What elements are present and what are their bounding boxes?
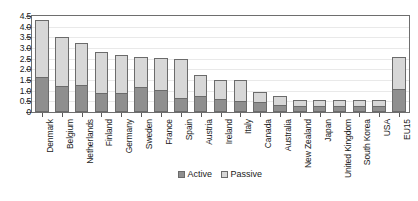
x-tick-mark [221,113,222,117]
x-tick-mark [201,113,202,117]
x-tick-mark [240,113,241,117]
bar-stack [234,80,248,112]
bar-segment-active [134,87,148,112]
y-axis: 00.51.01.52.02.53.03.54.04.5 [0,0,31,201]
bar-segment-active [372,106,386,112]
bar-segment-passive [35,20,49,77]
legend-item-passive[interactable]: Passive [221,170,262,179]
bar-stack [134,57,148,112]
bar-stack [313,100,327,112]
bar-group [392,16,406,112]
x-tick-mark [101,113,102,117]
bar-segment-active [253,102,267,112]
bar-stack [55,37,69,112]
x-tick-mark [121,113,122,117]
x-tick-label-australia: Australia [284,119,293,151]
y-tick-label: 4.0 [7,23,31,32]
x-tick-mark [161,113,162,117]
bar-segment-passive [75,43,89,85]
x-tick-mark [320,113,321,117]
bar-group [313,16,327,112]
bar-group [134,16,148,112]
bar-segment-active [194,96,208,112]
x-tick-mark [42,113,43,117]
bar-group [333,16,347,112]
x-tick-mark [399,113,400,117]
x-tick-label-france: France [165,119,174,145]
x-tick-label-south-korea: South Korea [363,119,372,165]
bar-group [214,16,228,112]
bar-segment-active [154,90,168,112]
bar-segment-active [75,85,89,112]
x-tick-mark [62,113,63,117]
y-tick-label: 0.5 [7,97,31,106]
bar-segment-passive [55,37,69,86]
bar-stack [194,75,208,112]
y-tick-label: 0 [7,108,31,117]
bar-series-container [32,16,409,112]
bar-stack [115,55,129,112]
x-tick-label-united-kingdom: United Kingdom [344,119,353,178]
bar-stack [273,96,287,112]
bar-group [194,16,208,112]
bar-group [253,16,267,112]
bar-stack [333,100,347,112]
legend-swatch-passive-icon [221,171,228,178]
y-tick-label: 3.5 [7,33,31,42]
x-tick-label-italy: Italy [244,119,253,134]
bar-segment-active [174,98,188,112]
x-tick-mark [82,113,83,117]
bar-stack [174,59,188,112]
bar-segment-active [293,106,307,112]
bar-segment-passive [234,80,248,101]
bar-segment-active [115,93,129,112]
bar-group [55,16,69,112]
bar-stack [353,100,367,112]
bar-segment-active [95,93,109,112]
x-tick-mark [359,113,360,117]
bar-segment-active [55,86,69,112]
bar-stack [253,92,267,112]
bar-stack [95,52,109,112]
x-tick-label-spain: Spain [185,119,194,140]
bar-segment-passive [194,75,208,96]
x-tick-label-ireland: Ireland [225,119,234,144]
x-tick-label-austria: Austria [205,119,214,145]
legend-label: Passive [231,170,263,179]
bar-segment-active [333,106,347,112]
bar-segment-passive [174,59,188,98]
bar-stack [392,57,406,112]
bar-stack [75,43,89,112]
bar-segment-passive [392,57,406,89]
bar-segment-active [313,106,327,112]
x-tick-mark [181,113,182,117]
legend-swatch-active-icon [178,171,185,178]
bar-group [154,16,168,112]
x-tick-label-japan: Japan [324,119,333,142]
x-tick-mark [300,113,301,117]
bar-segment-passive [95,52,109,93]
bar-group [115,16,129,112]
bar-segment-passive [134,57,148,88]
bar-group [234,16,248,112]
x-tick-label-new-zealand: New Zealand [304,119,313,168]
bar-stack [35,20,49,112]
bar-segment-passive [253,92,267,103]
bar-stack [214,80,228,112]
x-tick-label-denmark: Denmark [46,119,55,153]
bar-group [353,16,367,112]
x-tick-mark [260,113,261,117]
bar-segment-active [273,105,287,112]
chart-legend: ActivePassive [178,170,262,179]
y-tick-label: 3.0 [7,44,31,53]
x-tick-label-usa: USA [383,119,392,136]
y-tick-label: 1.0 [7,87,31,96]
legend-label: Active [188,170,213,179]
legend-item-active[interactable]: Active [178,170,212,179]
y-tick-label: 2.5 [7,55,31,64]
bar-group [95,16,109,112]
bar-group [372,16,386,112]
bar-segment-passive [214,80,228,99]
bar-segment-passive [115,55,129,92]
bar-segment-active [234,101,248,112]
